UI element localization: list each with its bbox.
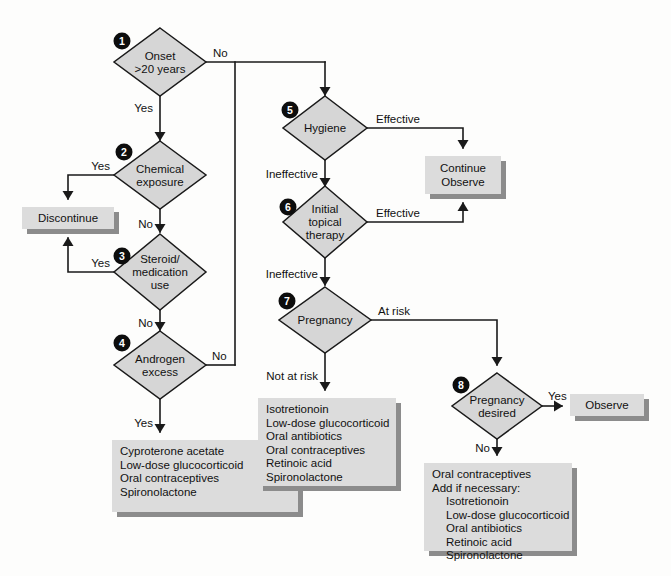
node-3-label: Steroid/ — [140, 253, 180, 265]
label-2-yes: Yes — [91, 160, 110, 172]
box-not-at-risk-treatment-line: Oral antibiotics — [266, 430, 342, 442]
node-5-number-text: 5 — [287, 104, 293, 116]
box-pregnancy-not-desired-treatment-line: Spironolactone — [446, 549, 523, 561]
box-not-at-risk-treatment-line: Isotretionoin — [266, 403, 329, 415]
node-1-label: Onset — [145, 50, 176, 62]
box-observe-line: Observe — [585, 399, 628, 411]
box-discontinue[interactable]: Discontinue — [22, 207, 119, 234]
edge-edge-2-no — [155, 209, 166, 233]
node-6[interactable]: Initialtopicaltherapy6 — [280, 186, 368, 258]
node-4[interactable]: Androgenexcess4 — [114, 331, 207, 399]
edge-edge-no-trunk-to-5 — [320, 62, 331, 96]
box-discontinue-line: Discontinue — [38, 212, 98, 224]
node-5-label: Hygiene — [304, 122, 346, 134]
label-5-ineffective: Ineffective — [266, 168, 318, 180]
node-6-number-text: 6 — [285, 201, 291, 213]
label-6-effective: Effective — [376, 207, 420, 219]
label-3-yes: Yes — [91, 257, 110, 269]
box-observe[interactable]: Observe — [570, 394, 649, 421]
edge-edge-8-yes — [542, 401, 563, 412]
node-8[interactable]: Pregnancydesired8 — [452, 373, 542, 439]
edge-7-atrisk-line — [371, 320, 497, 365]
node-2-label: Chemical — [136, 163, 184, 175]
box-continue-observe[interactable]: ContinueObserve — [425, 156, 506, 199]
box-pregnancy-not-desired-treatment-line: Add if necessary: — [432, 482, 520, 494]
node-8-label: desired — [478, 407, 516, 419]
node-1-label: >20 years — [135, 63, 186, 75]
box-continue-observe-line: Continue — [440, 162, 486, 174]
node-3-label: medication — [132, 266, 188, 278]
edge-3-yes-arrowhead — [63, 237, 74, 246]
label-7-atrisk: At risk — [378, 305, 410, 317]
label-7-notatrisk: Not at risk — [266, 370, 318, 382]
node-3-label: use — [151, 279, 170, 291]
edge-6-ineffective-arrowhead — [320, 277, 331, 286]
decision-flowchart: DiscontinueContinueObserveObserveCyprote… — [0, 0, 671, 576]
edge-6-effective-arrowhead — [458, 202, 469, 211]
box-pregnancy-not-desired-treatment-line: Retinoic acid — [446, 536, 512, 548]
node-6-label: topical — [308, 216, 341, 228]
edge-1-yes-arrowhead — [155, 132, 166, 141]
edge-7-notatrisk-arrowhead — [320, 382, 331, 391]
node-7[interactable]: Pregnancy7 — [279, 287, 372, 353]
edge-edge-7-atrisk — [371, 320, 503, 366]
box-androgen-treatment-line: Low-dose glucocorticoid — [120, 459, 243, 471]
box-androgen-treatment-line: Spironolactone — [120, 486, 197, 498]
label-8-yes: Yes — [548, 390, 567, 402]
node-6-label: therapy — [306, 229, 345, 241]
label-8-no: No — [475, 442, 490, 454]
node-4-label: Androgen — [135, 353, 185, 365]
box-not-at-risk-treatment-line: Spironolactone — [266, 471, 343, 483]
node-4-number-text: 4 — [119, 337, 125, 349]
edge-4-yes-arrowhead — [155, 424, 166, 433]
edge-no-trunk-to-5-arrowhead — [320, 87, 331, 96]
edge-3-no-arrowhead — [155, 322, 166, 331]
edge-edge-7-notatrisk — [320, 353, 331, 391]
edge-edge-5-effective — [367, 128, 469, 149]
box-pregnancy-not-desired-treatment-line: Oral contraceptives — [432, 468, 531, 480]
node-1[interactable]: Onset>20 years1 — [114, 28, 207, 96]
label-6-ineffective: Ineffective — [266, 268, 318, 280]
box-androgen-treatment-line: Oral contraceptives — [120, 472, 219, 484]
node-5[interactable]: Hygiene5 — [282, 96, 368, 160]
edge-edge-6-ineffective — [320, 258, 331, 286]
node-2[interactable]: Chemicalexposure2 — [114, 141, 206, 209]
node-6-label: Initial — [312, 203, 339, 215]
edge-edge-2-yes — [63, 175, 115, 200]
label-4-no: No — [212, 350, 227, 362]
node-3[interactable]: Steroid/medicationuse3 — [114, 234, 207, 310]
flowchart-canvas: DiscontinueContinueObserveObserveCyprote… — [0, 0, 671, 576]
node-8-label: Pregnancy — [470, 394, 525, 406]
box-pregnancy-not-desired-treatment[interactable]: Oral contraceptivesAdd if necessary:Isot… — [424, 463, 577, 561]
node-2-number-text: 2 — [121, 146, 127, 158]
edge-edge-5-ineffective — [320, 160, 331, 187]
box-pregnancy-not-desired-treatment-line: Oral antibiotics — [446, 522, 522, 534]
edge-2-no-arrowhead — [155, 224, 166, 233]
edge-5-effective-arrowhead — [458, 140, 469, 149]
box-not-at-risk-treatment[interactable]: IsotretionoinLow-dose glucocorticoidOral… — [258, 398, 401, 491]
box-androgen-treatment-line: Cyproterone acetate — [120, 445, 224, 457]
edge-edge-4-yes — [155, 399, 166, 433]
box-not-at-risk-treatment-line: Low-dose glucocorticoid — [266, 417, 389, 429]
node-1-number-text: 1 — [119, 35, 125, 47]
edge-8-yes-arrowhead — [554, 401, 563, 412]
label-3-no: No — [138, 317, 153, 329]
node-8-number-text: 8 — [458, 379, 464, 391]
node-7-label: Pregnancy — [298, 314, 353, 326]
label-2-no: No — [138, 218, 153, 230]
edge-2-yes-arrowhead — [63, 191, 74, 200]
label-1-no: No — [213, 47, 228, 59]
box-not-at-risk-treatment-line: Oral contraceptives — [266, 444, 365, 456]
edge-8-no-arrowhead — [492, 447, 503, 456]
edge-edge-1-yes — [155, 96, 166, 141]
label-4-yes: Yes — [134, 417, 153, 429]
label-5-effective: Effective — [376, 113, 420, 125]
box-not-at-risk-treatment-line: Retinoic acid — [266, 457, 332, 469]
label-1-yes: Yes — [134, 102, 153, 114]
node-4-label: excess — [142, 366, 178, 378]
box-pregnancy-not-desired-treatment-line: Isotretionoin — [446, 495, 509, 507]
node-2-label: exposure — [136, 176, 183, 188]
edge-2-yes-line — [68, 175, 114, 199]
edge-5-effective-line — [367, 128, 463, 148]
edge-edge-3-no — [155, 310, 166, 331]
